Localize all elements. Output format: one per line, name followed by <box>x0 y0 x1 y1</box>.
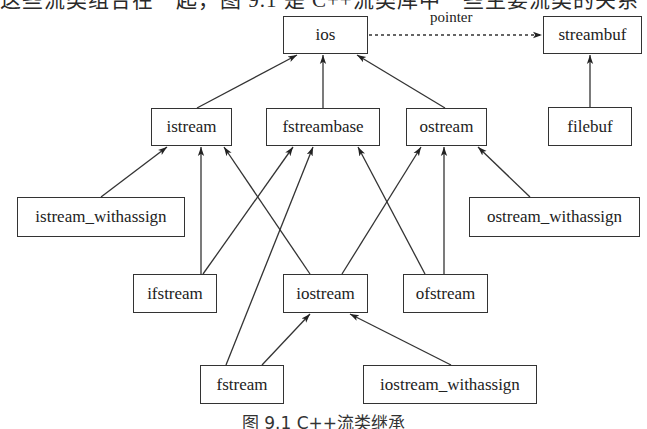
class-node-label: ostream <box>420 117 474 137</box>
class-node-fstreambase: fstreambase <box>266 108 380 146</box>
edge-istream_withassign-to-istream <box>101 147 167 197</box>
class-node-label: filebuf <box>567 117 612 137</box>
class-node-ostream: ostream <box>406 108 487 146</box>
class-node-ostream-withassign: ostream_withassign <box>469 197 640 237</box>
class-node-fstream: fstream <box>200 365 284 404</box>
class-node-label: ifstream <box>147 284 203 304</box>
class-node-label: iostream <box>296 284 355 304</box>
class-node-label: fstream <box>217 375 268 395</box>
edge-fstream-to-iostream <box>262 314 310 365</box>
figure-caption: 图 9.1 C++流类继承 <box>0 409 647 429</box>
edge-istream-to-ios <box>197 55 297 108</box>
class-node-iostream-withassign: iostream_withassign <box>363 365 537 404</box>
class-node-label: istream_withassign <box>35 207 166 227</box>
class-node-ifstream: ifstream <box>133 274 217 313</box>
class-node-label: fstreambase <box>282 117 363 137</box>
class-node-istream-withassign: istream_withassign <box>17 197 185 237</box>
class-node-label: iostream_withassign <box>380 375 520 395</box>
class-node-ios: ios <box>283 16 368 54</box>
edge-iostream_withassign-to-iostream <box>350 314 451 365</box>
edge-ostream-to-ios <box>357 55 445 108</box>
edge-ofstream-to-fstreambase <box>358 147 425 274</box>
edge-iostream-to-ostream <box>342 147 421 274</box>
class-node-label: streambuf <box>559 25 627 45</box>
class-node-streambuf: streambuf <box>543 16 642 54</box>
edge-ostream_withassign-to-ostream <box>478 147 530 197</box>
class-node-filebuf: filebuf <box>548 107 632 146</box>
edge-ifstream-to-fstreambase <box>203 147 293 274</box>
edge-iostream-to-istream <box>224 147 310 274</box>
class-node-label: ostream_withassign <box>487 207 622 227</box>
class-node-label: ofstream <box>416 284 475 304</box>
class-node-ofstream: ofstream <box>403 274 488 313</box>
class-node-label: istream <box>166 117 216 137</box>
class-node-iostream: iostream <box>283 274 368 313</box>
class-node-istream: istream <box>151 108 232 146</box>
class-node-label: ios <box>316 25 336 45</box>
pointer-edge-label: pointer <box>430 9 473 26</box>
